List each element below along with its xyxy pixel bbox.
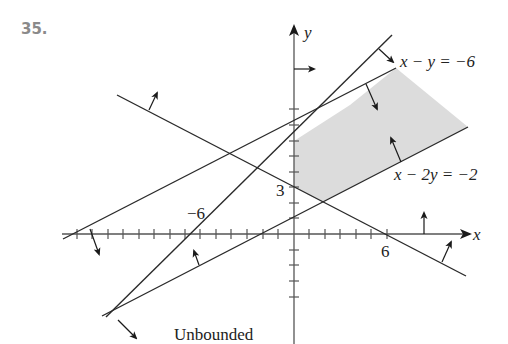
y-tick-label-3: 3	[276, 181, 285, 200]
x-axis	[62, 229, 470, 239]
equation-label-x-minus-y: x − y = −6	[399, 52, 476, 71]
feasible-region-graph: y x −6 6 3 x − y = −6 x − 2y = −2 Unboun…	[0, 0, 508, 344]
direction-arrow-icon	[442, 242, 451, 262]
equation-label-x-minus-2y: x − 2y = −2	[393, 165, 478, 184]
unbounded-label: Unbounded	[174, 325, 254, 344]
y-axis-label: y	[302, 23, 312, 42]
direction-arrow-icon	[379, 49, 393, 62]
direction-arrow-icon	[90, 229, 99, 254]
x-tick-label-neg6: −6	[187, 204, 205, 223]
constraint-line-x-minus-2y	[102, 127, 468, 316]
x-axis-label: x	[472, 225, 481, 244]
direction-arrow-icon	[194, 251, 199, 265]
x-tick-label-6: 6	[381, 242, 390, 261]
direction-arrow-icon	[149, 93, 157, 110]
direction-arrow-icon	[118, 320, 136, 338]
